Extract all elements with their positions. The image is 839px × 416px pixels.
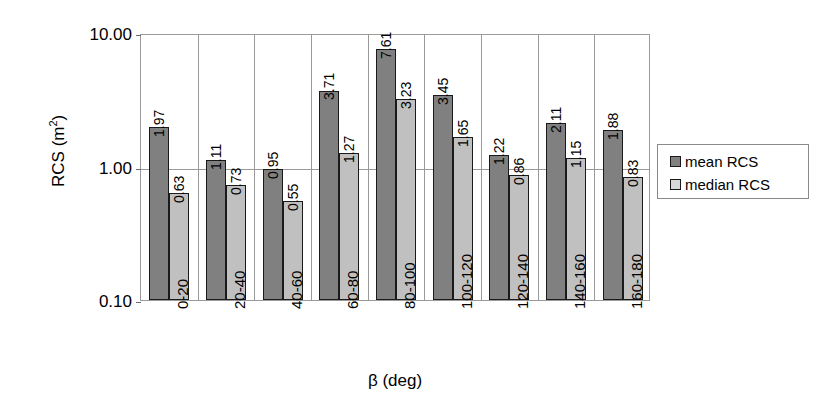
- legend-label-median: median RCS: [685, 176, 770, 193]
- bar-mean-rcs-80-100[interactable]: [376, 49, 396, 300]
- bar-value-label: 0.86: [512, 158, 526, 185]
- x-axis-tick-label-0-20: 0-20: [175, 279, 190, 309]
- y-axis-tick-mark: [136, 35, 141, 36]
- bar-value-label: 3.23: [399, 81, 413, 108]
- bar-value-label: 1.15: [569, 141, 583, 168]
- y-axis-tick-label: 0.10: [62, 293, 132, 310]
- bar-value-label: 1.11: [209, 144, 223, 170]
- bar-value-label: 0.63: [172, 176, 186, 203]
- legend-item-median[interactable]: median RCS: [670, 174, 808, 195]
- bar-value-label: 1.65: [456, 120, 470, 147]
- bar-mean-rcs-100-120[interactable]: [433, 95, 453, 300]
- x-axis-tick-label-100-120: 100-120: [459, 254, 474, 309]
- bar-mean-rcs-60-80[interactable]: [319, 91, 339, 301]
- bar-value-label: 1.22: [492, 138, 506, 165]
- bar-mean-rcs-160-180[interactable]: [603, 130, 623, 300]
- y-axis-tick-mark: [136, 169, 141, 170]
- bar-mean-rcs-20-40[interactable]: [206, 160, 226, 300]
- bar-mean-rcs-40-60[interactable]: [263, 169, 283, 300]
- category-separator-line: [254, 35, 255, 300]
- x-axis-tick-label-40-60: 40-60: [289, 271, 304, 309]
- legend-label-mean: mean RCS: [685, 153, 758, 170]
- x-axis-tick-label-60-80: 60-80: [345, 271, 360, 309]
- bar-value-label: 7.61: [379, 32, 393, 59]
- bar-mean-rcs-120-140[interactable]: [489, 155, 509, 300]
- category-separator-line: [538, 35, 539, 300]
- bar-value-label: 0.55: [286, 184, 300, 211]
- category-separator-line: [424, 35, 425, 300]
- x-axis-tick-label-20-40: 20-40: [232, 271, 247, 309]
- bar-value-label: 1.27: [342, 135, 356, 162]
- bar-value-label: 0.73: [229, 167, 243, 194]
- x-axis-title: β (deg): [140, 371, 650, 391]
- x-axis-tick-label-80-100: 80-100: [402, 262, 417, 309]
- bar-mean-rcs-140-160[interactable]: [546, 123, 566, 300]
- y-axis-tick-label: 1.00: [62, 160, 132, 177]
- y-axis-tick-labels: 10.001.000.10: [60, 0, 132, 416]
- legend-swatch-median-icon: [670, 179, 681, 190]
- bar-value-label: 1.97: [152, 110, 166, 137]
- y-axis-tick-label: 10.00: [62, 26, 132, 43]
- y-axis-title-superscript: 2: [47, 120, 59, 126]
- legend-swatch-mean-icon: [670, 156, 681, 167]
- category-separator-line: [368, 35, 369, 300]
- x-axis-tick-label-160-180: 160-180: [629, 254, 644, 309]
- chart-legend: mean RCS median RCS: [657, 144, 809, 199]
- bar-value-label: 0.95: [266, 152, 280, 179]
- bar-value-label: 1.88: [606, 113, 620, 140]
- category-separator-line: [481, 35, 482, 300]
- bar-value-label: 0.83: [626, 160, 640, 187]
- bar-value-label: 3.71: [322, 73, 336, 100]
- y-axis-tick-mark: [136, 302, 141, 303]
- x-axis-tick-label-120-140: 120-140: [515, 254, 530, 309]
- bar-value-label: 2.11: [549, 107, 563, 133]
- x-axis-tick-label-140-160: 140-160: [572, 254, 587, 309]
- chart-screenshot: RCS (m2) 10.001.000.10 1.970.631.110.730…: [0, 0, 839, 416]
- category-separator-line: [594, 35, 595, 300]
- legend-item-mean[interactable]: mean RCS: [670, 151, 808, 172]
- category-separator-line: [198, 35, 199, 300]
- category-separator-line: [311, 35, 312, 300]
- bar-value-label: 3.45: [436, 77, 450, 104]
- bar-mean-rcs-0-20[interactable]: [149, 127, 169, 300]
